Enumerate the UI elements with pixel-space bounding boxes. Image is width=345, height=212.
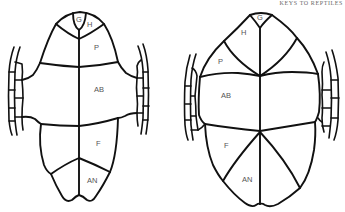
label-humeral-right: H [241,28,246,37]
label-abdominal-left: AB [94,85,104,94]
humero-pectoral-seam [56,24,104,39]
label-gular-right: G [257,13,263,22]
femoro-anal-seam [51,158,110,174]
right-marginal-scutes-right [318,50,339,140]
label-anal-right: AN [242,175,252,184]
right-bridge-right-plastron [315,74,320,122]
plastron-diagrams: G H P AB F AN [0,0,345,212]
humero-pectoral-seam-left [224,41,260,76]
label-anal-left: AN [87,176,97,185]
plastron-right: G H P AB F AN [185,13,340,206]
humero-pectoral-seam-right [260,38,297,76]
right-inguinal-notch [118,113,137,118]
right-marginal-scutes [137,44,150,134]
label-pectoral-right: P [218,57,223,66]
left-marginal-scutes-right [185,54,206,140]
label-gular-left: G [76,15,82,24]
label-pectoral-left: P [94,43,99,52]
left-inguinal-notch [22,117,41,124]
anterior-lobe-outline-right [200,13,318,77]
femoro-anal-seam-left-right [223,132,260,181]
plastron-left: G H P AB F AN [9,12,150,201]
right-axillary-notch [118,62,137,78]
left-marginal-scutes [9,47,24,135]
label-humeral-left: H [87,20,92,29]
left-axillary-notch [22,63,40,80]
label-femoral-left: F [96,139,101,148]
left-bridge-right-plastron [199,77,205,124]
femoro-anal-seam-right-right [260,132,300,188]
label-abdominal-right: AB [221,91,231,100]
label-femoral-right: F [224,141,229,150]
